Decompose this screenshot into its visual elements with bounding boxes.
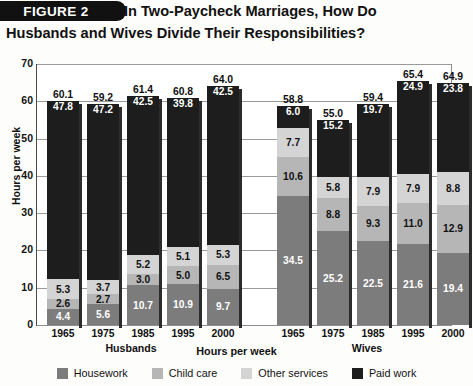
bar-total-label: 59.2 [81, 92, 125, 103]
legend-label: Housework [74, 367, 128, 379]
bar-segment-other-services: 7.9 [397, 174, 429, 203]
bar-wives-1995[interactable]: 21.611.07.924.965.4 [397, 81, 429, 325]
bar-total-label: 55.0 [311, 108, 355, 119]
legend-swatch-other-services [241, 368, 252, 379]
bar-shadow [79, 104, 82, 328]
bar-husbands-1985[interactable]: 10.73.05.242.561.4 [127, 96, 159, 325]
x-axis-tick-husbands-1985: 1985 [121, 328, 165, 339]
bar-segment-child-care: 12.9 [437, 205, 469, 253]
bar-segment-other-services: 8.8 [437, 172, 469, 205]
legend-label: Child care [169, 367, 218, 379]
bar-segment-other-services: 3.7 [87, 280, 119, 294]
bar-total-label: 64.0 [201, 74, 245, 85]
bar-segment-child-care: 8.8 [317, 198, 349, 231]
bar-segment-other-services: 7.7 [277, 128, 309, 157]
x-axis-tick-wives-1995: 1995 [391, 328, 435, 339]
bar-segment-paid-work: 24.9 [397, 81, 429, 174]
bar-segment-other-services: 5.3 [47, 279, 79, 299]
bar-segment-paid-work: 19.7 [357, 104, 389, 177]
bar-shadow [239, 89, 242, 328]
bar-segment-paid-work: 42.5 [127, 96, 159, 254]
bar-segment-child-care: 2.6 [47, 299, 79, 309]
bar-segment-child-care: 11.0 [397, 203, 429, 244]
legend-item-other-services[interactable]: Other services [241, 367, 328, 379]
bar-total-label: 64.9 [431, 71, 473, 82]
bar-shadow [159, 99, 162, 328]
bar-segment-housework: 34.5 [277, 196, 309, 325]
bar-segment-other-services: 5.3 [207, 245, 239, 265]
bars-container: 4.42.65.347.860.15.62.73.747.259.210.73.… [37, 64, 451, 325]
bar-shadow [429, 84, 432, 328]
figure-header: FIGURE 2 In Two-Paycheck Marriages, How … [0, 0, 473, 52]
y-axis-tick-label: 20 [3, 243, 33, 255]
x-axis-tick-husbands-1975: 1975 [81, 328, 125, 339]
chart-legend: HouseworkChild careOther servicesPaid wo… [0, 364, 473, 382]
legend-swatch-child-care [152, 368, 163, 379]
x-axis-tick-wives-1965: 1965 [271, 328, 315, 339]
bar-segment-paid-work: 47.2 [87, 104, 119, 280]
bar-segment-housework: 10.9 [167, 284, 199, 325]
legend-item-paid-work[interactable]: Paid work [352, 367, 416, 379]
bar-segment-housework: 10.7 [127, 285, 159, 325]
bar-segment-child-care: 9.3 [357, 206, 389, 241]
bar-total-label: 65.4 [391, 69, 435, 80]
x-axis-tick-husbands-1995: 1995 [161, 328, 205, 339]
bar-husbands-1975[interactable]: 5.62.73.747.259.2 [87, 104, 119, 325]
bar-shadow [199, 101, 202, 328]
x-axis-tick-wives-2000: 2000 [431, 328, 473, 339]
bar-shadow [119, 107, 122, 328]
legend-item-housework[interactable]: Housework [57, 367, 128, 379]
bar-wives-2000[interactable]: 19.412.98.823.864.9 [437, 83, 469, 325]
bar-segment-other-services: 5.8 [317, 177, 349, 199]
page-title-line-1: In Two-Paycheck Marriages, How Do [124, 1, 469, 22]
bar-segment-housework: 25.2 [317, 231, 349, 325]
bar-husbands-2000[interactable]: 9.76.55.342.564.0 [207, 86, 239, 325]
bar-segment-housework: 22.5 [357, 241, 389, 325]
bar-segment-paid-work: 47.8 [47, 101, 79, 279]
bar-segment-paid-work: 23.8 [437, 83, 469, 172]
bar-segment-child-care: 2.7 [87, 294, 119, 304]
bar-shadow [349, 123, 352, 328]
bar-segment-other-services: 7.9 [357, 177, 389, 206]
legend-item-child-care[interactable]: Child care [152, 367, 218, 379]
page-title-line-2: Husbands and Wives Divide Their Responsi… [6, 23, 469, 44]
x-axis-tick-labels: 1965197519851995200019651975198519952000 [37, 328, 451, 342]
bar-segment-housework: 19.4 [437, 253, 469, 325]
bar-husbands-1965[interactable]: 4.42.65.347.860.1 [47, 101, 79, 325]
legend-swatch-housework [57, 368, 68, 379]
bar-shadow [389, 107, 392, 328]
bar-segment-other-services: 5.2 [127, 255, 159, 274]
x-axis-tick-wives-1975: 1975 [311, 328, 355, 339]
bar-segment-other-services: 5.1 [167, 247, 199, 266]
y-axis-tick-label: 60 [3, 94, 33, 106]
bar-wives-1965[interactable]: 34.510.67.76.058.8 [277, 106, 309, 325]
figure-tag: FIGURE 2 [0, 1, 112, 21]
bar-husbands-1995[interactable]: 10.95.05.139.860.8 [167, 98, 199, 325]
bar-shadow [309, 109, 312, 328]
bar-total-label: 61.4 [121, 84, 165, 95]
bar-segment-housework: 4.4 [47, 309, 79, 325]
bar-total-label: 59.4 [351, 92, 395, 103]
bar-segment-child-care: 5.0 [167, 266, 199, 285]
bar-wives-1975[interactable]: 25.28.85.815.255.0 [317, 120, 349, 325]
bar-segment-housework: 5.6 [87, 304, 119, 325]
bar-total-label: 60.8 [161, 86, 205, 97]
legend-swatch-paid-work [352, 368, 363, 379]
bar-total-label: 58.8 [271, 94, 315, 105]
legend-label: Other services [258, 367, 328, 379]
bar-shadow [469, 86, 472, 328]
bar-wives-1985[interactable]: 22.59.37.919.759.4 [357, 104, 389, 325]
y-axis-title: Hours per week [10, 121, 22, 211]
bar-segment-paid-work: 39.8 [167, 98, 199, 246]
bar-segment-child-care: 6.5 [207, 265, 239, 289]
x-axis-tick-husbands-1965: 1965 [41, 328, 85, 339]
bar-segment-paid-work: 15.2 [317, 120, 349, 177]
bar-segment-housework: 21.6 [397, 244, 429, 325]
x-axis-tick-wives-1985: 1985 [351, 328, 395, 339]
bar-segment-paid-work: 6.0 [277, 106, 309, 128]
y-axis-tick-label: 10 [3, 281, 33, 293]
bar-segment-paid-work: 42.5 [207, 86, 239, 244]
bar-segment-housework: 9.7 [207, 289, 239, 325]
bar-segment-child-care: 10.6 [277, 157, 309, 197]
x-axis-tick-husbands-2000: 2000 [201, 328, 245, 339]
